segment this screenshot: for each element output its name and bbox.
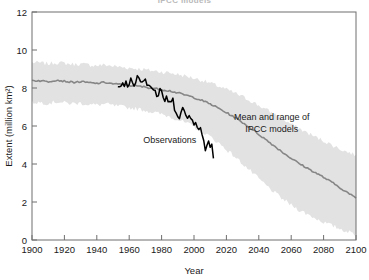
x-tick-label: 1900 [21,244,42,255]
ipcc-label-line1: Mean and range of [234,112,310,122]
x-tick-label: 1920 [54,244,75,255]
ipcc-label-line2: IPCC models [245,124,299,134]
y-tick-label: 6 [22,121,27,132]
x-tick-label: 2020 [216,244,237,255]
observations-label: Observations [143,135,197,145]
x-tick-label: 2080 [313,244,334,255]
y-axis-label: Extent (million km²) [3,85,14,166]
x-axis-label: Year [184,265,203,276]
y-tick-label: 2 [22,197,27,208]
x-tick-label: 2000 [183,244,204,255]
x-tick-label: 2040 [248,244,269,255]
axis-tick-labels: 1900192019401960198020002020204020602080… [16,7,366,256]
x-tick-label: 2100 [345,244,366,255]
chart-canvas: 1900192019401960198020002020204020602080… [0,0,369,280]
x-tick-label: 1940 [86,244,107,255]
y-tick-label: 0 [22,235,27,246]
figure-title-cropped: IPCC models [0,0,369,3]
x-tick-label: 1960 [119,244,140,255]
x-tick-label: 2060 [281,244,302,255]
uncertainty-band [32,61,356,236]
sea-ice-extent-figure: IPCC models 1900192019401960198020002020… [0,0,369,280]
y-tick-label: 10 [16,45,27,56]
x-tick-label: 1980 [151,244,172,255]
y-tick-label: 8 [22,83,27,94]
y-tick-label: 4 [22,159,27,170]
y-tick-label: 12 [16,7,27,18]
